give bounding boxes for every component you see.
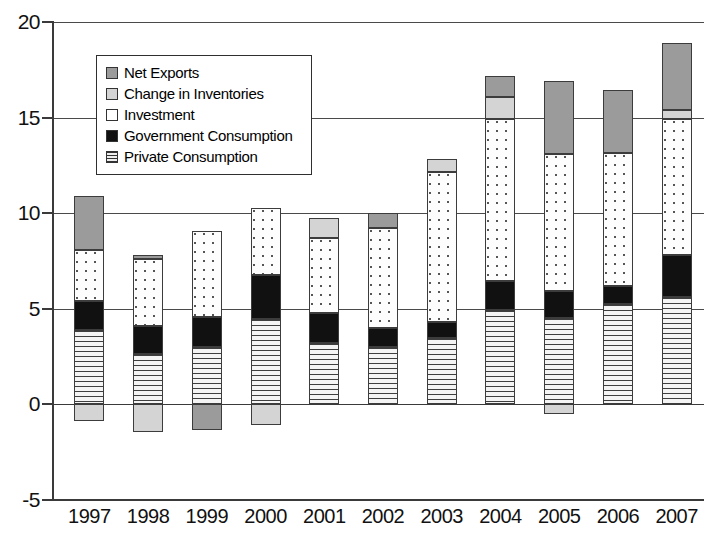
legend-swatch-net_exports-icon xyxy=(106,67,118,79)
bar-segment-net_exports-2007[interactable] xyxy=(662,43,692,110)
bar-group-2007[interactable] xyxy=(662,22,692,500)
bar-segment-government-1998[interactable] xyxy=(133,326,163,354)
x-tick-label-2005: 2005 xyxy=(529,505,589,527)
bar-group-2005[interactable] xyxy=(544,22,574,500)
bar-segment-investment-1999[interactable] xyxy=(192,231,222,317)
y-tick: 15 xyxy=(0,107,40,128)
bar-segment-investment-2006[interactable] xyxy=(603,153,633,286)
bar-segment-government-1999[interactable] xyxy=(192,317,222,347)
bar-segment-private-2007[interactable] xyxy=(662,297,692,404)
bar-segment-inventories-2007[interactable] xyxy=(662,110,692,119)
legend-swatch-inventories-icon xyxy=(106,88,118,100)
legend-item-inventories[interactable]: Change in Inventories xyxy=(106,83,302,104)
bar-segment-government-2002[interactable] xyxy=(368,328,398,347)
y-tick: 0 xyxy=(0,393,40,414)
legend-item-investment[interactable]: Investment xyxy=(106,104,302,125)
bar-segment-investment-2007[interactable] xyxy=(662,119,692,256)
y-tick-label: 15 xyxy=(2,107,40,128)
bar-segment-government-2003[interactable] xyxy=(427,322,457,338)
x-tick-label-1997: 1997 xyxy=(59,505,119,527)
bar-segment-inventories-1997[interactable] xyxy=(74,404,104,420)
y-tick-label: 0 xyxy=(2,393,40,414)
x-tick-label-2002: 2002 xyxy=(353,505,413,527)
x-tick-label-2003: 2003 xyxy=(412,505,472,527)
bar-segment-inventories-2005[interactable] xyxy=(544,404,574,414)
bar-group-2002[interactable] xyxy=(368,22,398,500)
bar-segment-net_exports-2005[interactable] xyxy=(544,81,574,154)
x-tick-label-2006: 2006 xyxy=(588,505,648,527)
y-tick-label: 5 xyxy=(2,298,40,319)
legend-label-government: Government Consumption xyxy=(124,128,293,144)
y-axis-line xyxy=(52,22,54,500)
bar-segment-private-2004[interactable] xyxy=(485,310,515,405)
bar-segment-inventories-2001[interactable] xyxy=(309,218,339,238)
bar-segment-government-2001[interactable] xyxy=(309,313,339,344)
bar-segment-private-1998[interactable] xyxy=(133,354,163,405)
bar-group-2004[interactable] xyxy=(485,22,515,500)
x-tick-label-1999: 1999 xyxy=(177,505,237,527)
bar-segment-net_exports-1998[interactable] xyxy=(133,255,163,259)
bar-segment-net_exports-2002[interactable] xyxy=(368,213,398,227)
legend-label-investment: Investment xyxy=(124,107,194,123)
bar-segment-government-2004[interactable] xyxy=(485,281,515,310)
legend-swatch-government-icon xyxy=(106,130,118,142)
bar-segment-investment-2004[interactable] xyxy=(485,119,515,282)
bar-segment-investment-2003[interactable] xyxy=(427,172,457,322)
chart-legend: Net ExportsChange in InventoriesInvestme… xyxy=(96,55,312,175)
bar-segment-government-2000[interactable] xyxy=(251,275,281,319)
bar-segment-net_exports-2006[interactable] xyxy=(603,90,633,153)
legend-item-private[interactable]: Private Consumption xyxy=(106,146,302,167)
legend-item-net_exports[interactable]: Net Exports xyxy=(106,62,302,83)
bar-segment-net_exports-1997[interactable] xyxy=(74,196,104,250)
bar-segment-private-1997[interactable] xyxy=(74,330,104,405)
bar-segment-government-2006[interactable] xyxy=(603,286,633,304)
y-tick-label: -5 xyxy=(2,489,40,510)
legend-item-government[interactable]: Government Consumption xyxy=(106,125,302,146)
legend-swatch-investment-icon xyxy=(106,109,118,121)
bar-segment-government-1997[interactable] xyxy=(74,301,104,330)
stacked-bar-chart: -505101520 19971998199920002001200220032… xyxy=(0,0,714,540)
legend-swatch-private-icon xyxy=(106,151,118,163)
bar-segment-private-2006[interactable] xyxy=(603,304,633,404)
bar-segment-investment-2001[interactable] xyxy=(309,238,339,313)
bar-segment-net_exports-1999[interactable] xyxy=(192,404,222,430)
bar-segment-government-2005[interactable] xyxy=(544,291,574,319)
bar-segment-private-2002[interactable] xyxy=(368,347,398,404)
legend-label-inventories: Change in Inventories xyxy=(124,86,264,102)
bar-segment-investment-1998[interactable] xyxy=(133,259,163,326)
bar-segment-private-2005[interactable] xyxy=(544,318,574,404)
x-tick-label-2000: 2000 xyxy=(236,505,296,527)
bar-segment-investment-1997[interactable] xyxy=(74,250,104,302)
bar-group-2003[interactable] xyxy=(427,22,457,500)
bar-segment-investment-2005[interactable] xyxy=(544,154,574,291)
y-tick: 10 xyxy=(0,202,40,223)
bar-segment-private-2003[interactable] xyxy=(427,338,457,404)
bar-segment-private-2001[interactable] xyxy=(309,343,339,404)
bar-segment-inventories-2000[interactable] xyxy=(251,404,281,425)
x-tick-label-2001: 2001 xyxy=(294,505,354,527)
bar-segment-investment-2000[interactable] xyxy=(251,208,281,275)
bar-segment-inventories-2004[interactable] xyxy=(485,97,515,119)
y-tick-label: 20 xyxy=(2,11,40,32)
y-tick-label: 10 xyxy=(2,202,40,223)
bar-segment-inventories-2003[interactable] xyxy=(427,159,457,172)
x-tick-label-1998: 1998 xyxy=(118,505,178,527)
bar-group-2001[interactable] xyxy=(309,22,339,500)
bar-segment-private-1999[interactable] xyxy=(192,347,222,404)
legend-label-net_exports: Net Exports xyxy=(124,65,199,81)
y-tick: 20 xyxy=(0,11,40,32)
legend-label-private: Private Consumption xyxy=(124,149,258,165)
bar-segment-investment-2002[interactable] xyxy=(368,228,398,328)
y-tick: -5 xyxy=(0,489,40,510)
bar-segment-private-2000[interactable] xyxy=(251,319,281,404)
bar-segment-government-2007[interactable] xyxy=(662,255,692,297)
y-tick: 5 xyxy=(0,298,40,319)
x-tick-label-2004: 2004 xyxy=(470,505,530,527)
bar-segment-net_exports-2004[interactable] xyxy=(485,76,515,97)
x-tick-label-2007: 2007 xyxy=(647,505,707,527)
bar-group-2006[interactable] xyxy=(603,22,633,500)
bar-segment-inventories-1998[interactable] xyxy=(133,404,163,432)
